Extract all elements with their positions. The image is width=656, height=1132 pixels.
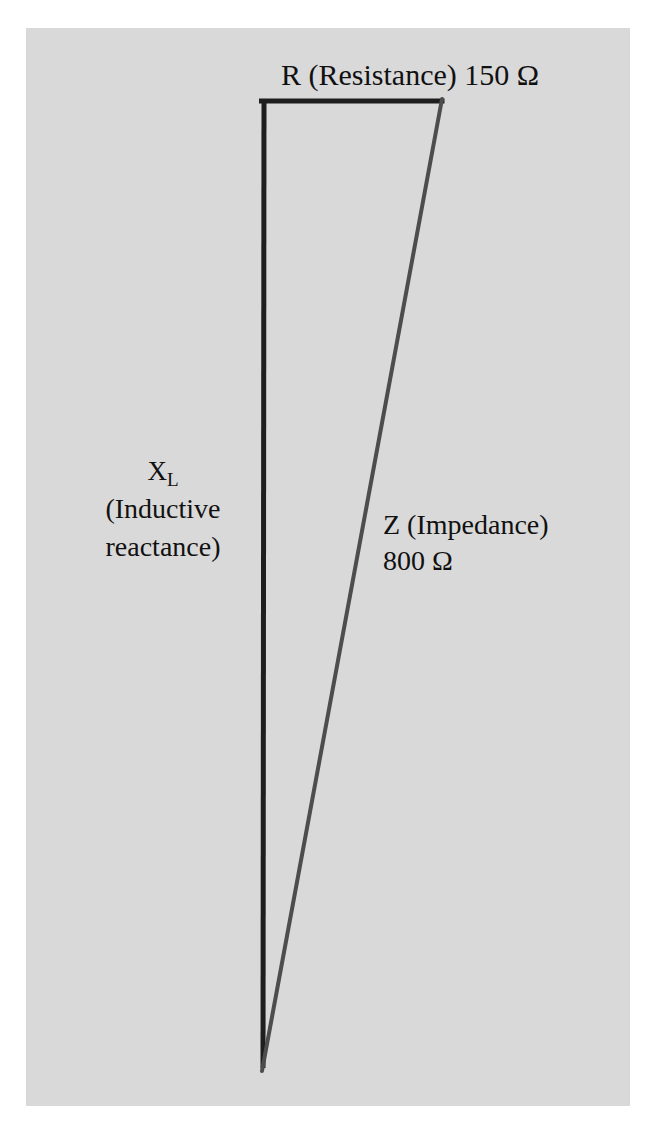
impedance-label-line2: 800 Ω — [383, 543, 549, 579]
reactance-symbol: XL — [92, 452, 234, 490]
resistance-label-text: R (Resistance) 150 Ω — [281, 58, 539, 91]
reactance-subscript: L — [167, 469, 179, 490]
impedance-triangle — [0, 0, 656, 1132]
impedance-label-line1: Z (Impedance) — [383, 507, 549, 543]
resistance-label: R (Resistance) 150 Ω — [281, 60, 539, 90]
impedance-side — [262, 99, 442, 1071]
reactance-label: XL (Inductive reactance) — [92, 452, 234, 566]
impedance-label: Z (Impedance) 800 Ω — [383, 507, 549, 579]
reactance-label-line2: reactance) — [92, 528, 234, 566]
reactance-side — [263, 101, 264, 1068]
reactance-label-line1: (Inductive — [92, 490, 234, 528]
